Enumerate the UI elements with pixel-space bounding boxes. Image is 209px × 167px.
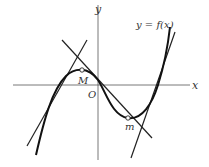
min-point-label: m	[125, 121, 134, 132]
curve-label: y = f(x)	[135, 19, 174, 30]
local-max-point	[80, 68, 84, 72]
line-middle	[62, 40, 152, 138]
line-right	[131, 32, 175, 158]
local-min-point	[126, 116, 130, 120]
y-axis-label: y	[94, 3, 102, 16]
line-left	[27, 40, 87, 146]
max-point-label: M	[77, 75, 89, 86]
x-axis-label: x	[192, 79, 199, 92]
graph-canvas: y x O M m y = f(x)	[0, 0, 209, 167]
function-graph-diagram: y x O M m y = f(x)	[0, 0, 209, 167]
origin-label: O	[88, 89, 96, 100]
